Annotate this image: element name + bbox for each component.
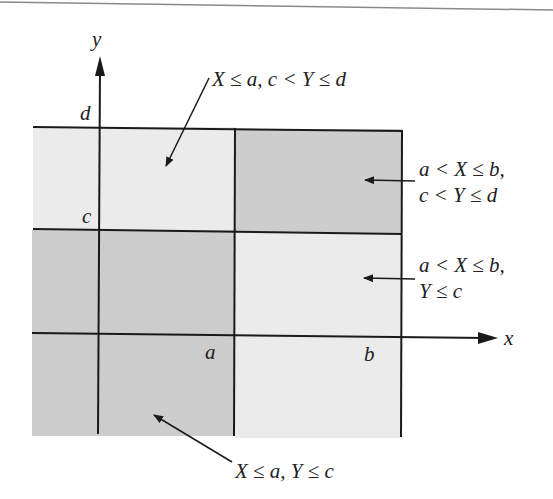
leader-right-lower-arrow <box>364 278 415 279</box>
tick-label-c: c <box>82 204 92 228</box>
leader-right-upper-arrow <box>365 180 415 181</box>
label-top-region: X ≤ a, c < Y ≤ d <box>211 67 347 91</box>
region-top-right-dark <box>235 129 402 233</box>
label-right-upper-line2: c < Y ≤ d <box>419 183 498 207</box>
label-right-upper-line1: a < X ≤ b, <box>419 157 505 181</box>
label-bottom-region: X ≤ a, Y ≤ c <box>234 459 335 483</box>
x-axis-label: x <box>503 326 514 350</box>
tick-label-b: b <box>364 342 375 366</box>
tick-label-a: a <box>205 340 216 364</box>
y-axis-arrow-icon <box>95 56 105 76</box>
label-right-lower-line2: Y ≤ c <box>419 279 463 303</box>
region-top-left-light <box>33 127 235 230</box>
tick-label-d: d <box>80 101 91 125</box>
y-axis-label: y <box>90 27 102 51</box>
x-axis-arrow-icon <box>478 332 498 344</box>
line-x-equals-b <box>401 130 402 437</box>
line-x-equals-a <box>234 128 235 436</box>
label-right-lower-line1: a < X ≤ b, <box>419 253 505 277</box>
page-top-rule <box>0 2 553 10</box>
region-diagram: y x d c a b X ≤ a, c < Y ≤ d a < X ≤ b, … <box>0 0 553 499</box>
